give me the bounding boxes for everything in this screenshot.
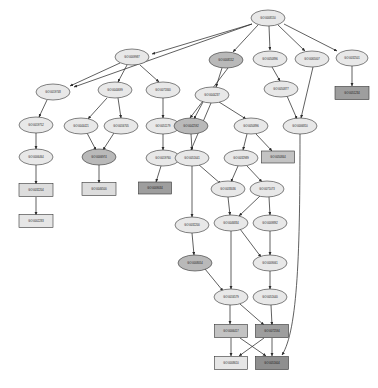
node-label: GO:0016705 [113, 124, 129, 128]
dag-node[interactable]: GO:0050896 [234, 118, 268, 134]
dag-edge [192, 233, 194, 255]
node-label: GO:0051179 [155, 124, 171, 128]
dag-edge [191, 134, 192, 150]
dag-canvas: GO:0008150GO:0009987GO:0008152GO:0050896… [0, 0, 378, 388]
dag-edge [269, 197, 270, 215]
node-label: GO:0008610 [223, 361, 239, 365]
dag-edge [240, 304, 264, 325]
dag-edge [278, 25, 305, 51]
node-label: GO:0016579 [223, 295, 239, 299]
dag-edge [282, 134, 300, 355]
dag-edge [228, 197, 230, 215]
dag-node[interactable]: GO:0050877 [264, 81, 298, 97]
dag-edge [231, 166, 238, 182]
dag-edge [88, 98, 107, 119]
dag-node[interactable]: GO:0033036 [211, 181, 245, 197]
dag-leaf-node[interactable]: GO:0008610 [215, 357, 248, 370]
dag-edge [118, 65, 127, 82]
dag-leaf-node[interactable]: GO:0002283 [19, 215, 53, 228]
dag-leaf-node[interactable]: GO:0046500 [82, 183, 116, 196]
node-label: GO:0050844 [270, 155, 286, 159]
dag-node[interactable]: GO:0008152 [209, 52, 243, 68]
node-label: GO:0019760 [155, 156, 171, 160]
dag-leaf-node[interactable]: GO:0072594 [256, 325, 289, 338]
node-label: GO:0006974 [91, 155, 107, 159]
dag-edge [39, 100, 47, 117]
dag-node[interactable]: GO:0051640 [253, 289, 287, 305]
dag-leaf-node[interactable]: GO:0032204 [19, 184, 53, 197]
dag-edge [269, 26, 270, 50]
dag-edge [256, 134, 272, 151]
dag-node[interactable]: GO:0006464 [19, 149, 53, 165]
dag-node[interactable]: GO:0019748 [36, 84, 70, 100]
node-label: GO:0042592 [183, 124, 199, 128]
dag-edge [247, 166, 262, 182]
node-label: GO:0006464 [28, 155, 44, 159]
node-label: GO:0032204 [28, 188, 44, 192]
node-label: GO:0008150 [260, 16, 276, 20]
node-label: GO:0009987 [124, 55, 140, 59]
node-label: GO:0019752 [28, 123, 44, 127]
node-label: GO:0050877 [273, 87, 289, 91]
dag-node[interactable]: GO:0006810 [283, 118, 317, 134]
dag-node[interactable]: GO:0065007 [295, 51, 329, 67]
dag-node[interactable]: GO:0051641 [175, 150, 209, 166]
dag-edge [239, 338, 264, 356]
node-label: GO:0071073 [259, 187, 275, 191]
dag-node[interactable]: GO:0071073 [250, 181, 284, 197]
node-label: GO:0071840 [155, 88, 171, 92]
node-label: GO:0051640 [262, 295, 278, 299]
dag-leaf-node[interactable]: GO:0051234 [335, 87, 369, 100]
dag-edge [301, 67, 313, 118]
dag-node[interactable]: GO:0032200 [175, 217, 209, 233]
dag-node[interactable]: GO:0008150 [251, 10, 285, 26]
dag-leaf-node[interactable]: GO:0050844 [262, 151, 295, 163]
dag-node[interactable]: GO:0071840 [146, 82, 180, 98]
dag-edge [103, 133, 114, 150]
node-label: GO:0044237 [204, 93, 220, 97]
dag-edge [140, 65, 159, 82]
dag-node[interactable]: GO:0044237 [195, 87, 229, 103]
dag-node[interactable]: GO:0032501 [336, 50, 368, 66]
dag-node[interactable]: GO:0032989 [224, 150, 258, 166]
dag-node[interactable]: GO:0044699 [98, 82, 132, 98]
node-label: GO:0046500 [91, 187, 107, 191]
nodes-layer: GO:0008150GO:0009987GO:0008152GO:0050896… [19, 10, 369, 370]
dag-node[interactable]: GO:0046834 [214, 215, 248, 231]
node-label: GO:0009061 [262, 261, 278, 265]
node-label: GO:0009892 [262, 221, 278, 225]
node-label: GO:0046834 [223, 221, 239, 225]
dag-edge [156, 166, 161, 182]
dag-edge [240, 338, 266, 356]
dag-leaf-node[interactable]: GO:0051604 [256, 357, 289, 370]
dag-node[interactable]: GO:0006974 [82, 149, 116, 165]
node-label: GO:0072594 [264, 329, 280, 333]
dag-edge [284, 24, 337, 51]
node-label: GO:0044421 [73, 124, 89, 128]
dag-node[interactable]: GO:0009061 [253, 255, 287, 271]
node-label: GO:0050896 [262, 57, 278, 61]
node-label: GO:0032200 [184, 223, 200, 227]
dag-node[interactable]: GO:0044421 [64, 118, 98, 134]
dag-node[interactable]: GO:0016705 [104, 118, 138, 134]
dag-node[interactable]: GO:0016579 [214, 289, 248, 305]
dag-leaf-node[interactable]: GO:0006417 [215, 325, 248, 338]
dag-node[interactable]: GO:0050896 [253, 51, 287, 67]
node-label: GO:0006810 [292, 124, 308, 128]
node-label: GO:0050896 [243, 124, 259, 128]
dag-node[interactable]: GO:0008054 [178, 255, 212, 271]
dag-node[interactable]: GO:0019752 [19, 117, 53, 133]
dag-leaf-node[interactable]: GO:0009034 [139, 182, 172, 194]
dag-edge [271, 305, 272, 325]
node-label: GO:0051641 [184, 156, 200, 160]
dag-edge [118, 98, 121, 118]
node-label: GO:0008054 [187, 261, 203, 265]
node-label: GO:0008152 [218, 58, 234, 62]
node-label: GO:0032989 [233, 156, 249, 160]
dag-edge [205, 269, 223, 291]
dag-edge [243, 134, 247, 150]
dag-node[interactable]: GO:0009892 [253, 215, 287, 231]
dag-node[interactable]: GO:0009987 [115, 49, 149, 65]
dag-node[interactable]: GO:0042592 [174, 118, 208, 134]
dag-edge [287, 96, 297, 119]
